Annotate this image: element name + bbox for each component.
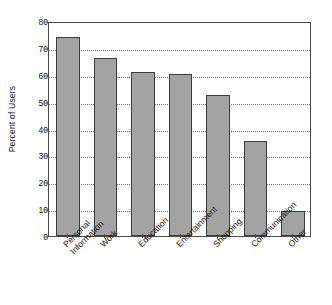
- bar: [56, 37, 80, 236]
- bar-chart-figure: Percent of Users 01020304050607080 Perso…: [0, 0, 332, 305]
- x-axis-category-labels: PersonalInformationWorkEducationEntertai…: [48, 238, 311, 305]
- bar: [131, 72, 155, 236]
- bar: [169, 74, 193, 236]
- plot-area: [48, 22, 311, 237]
- bars-group: [49, 23, 310, 236]
- y-axis-title-text: Percent of Users: [7, 85, 17, 152]
- bar: [244, 141, 268, 236]
- bar: [94, 58, 118, 236]
